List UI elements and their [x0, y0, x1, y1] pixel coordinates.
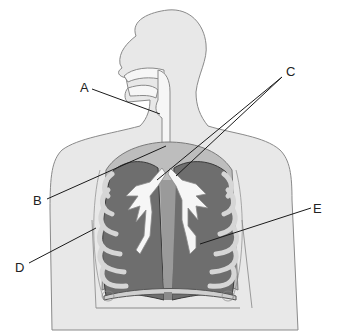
respiratory-system-diagram: A B C D E: [0, 0, 339, 332]
label-b: B: [33, 193, 42, 208]
label-d: D: [15, 260, 24, 275]
label-e: E: [313, 201, 322, 216]
label-c: C: [286, 64, 295, 79]
spine-segment: [164, 292, 172, 300]
oral-cavity: [128, 85, 158, 98]
label-a: A: [80, 80, 89, 95]
diagram-canvas: A B C D E: [0, 0, 339, 332]
